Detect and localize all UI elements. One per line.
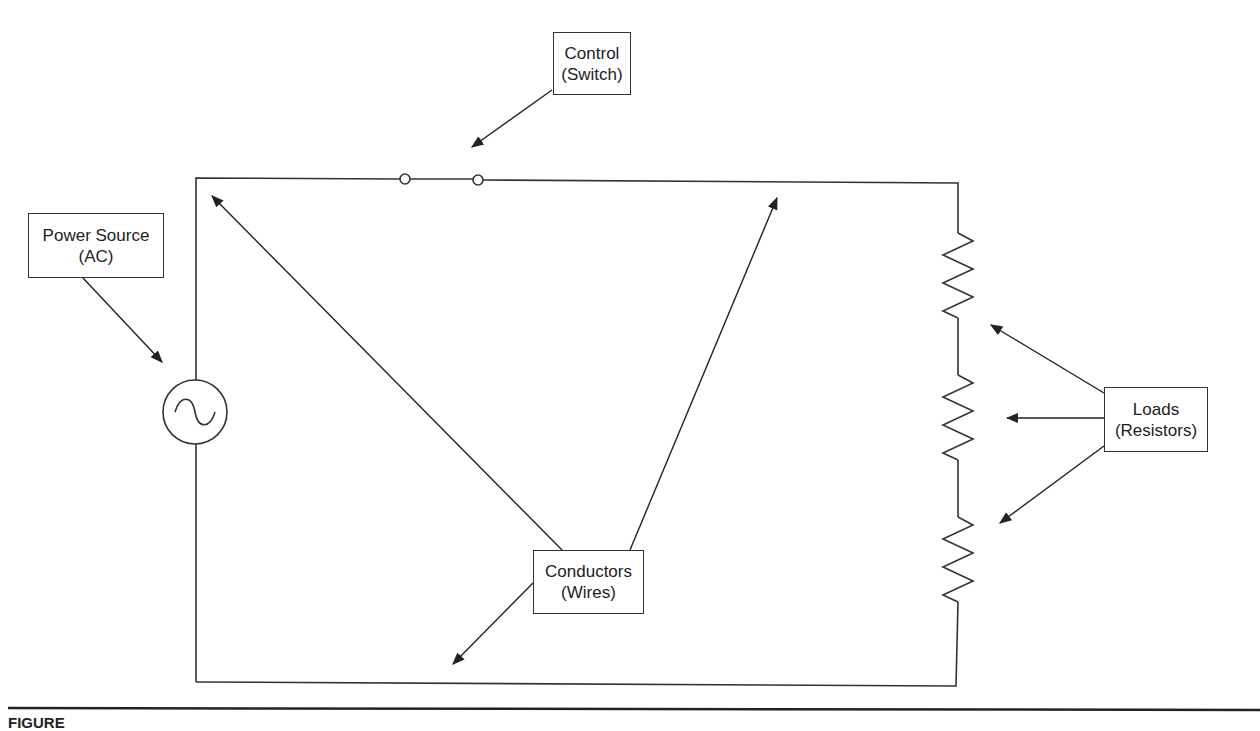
figure-caption: FIGURE: [8, 714, 65, 731]
loads-label-line1: Loads: [1105, 399, 1207, 420]
control-label: Control (Switch): [553, 32, 631, 95]
loads-label-line2: (Resistors): [1105, 420, 1207, 441]
resistor-3: [943, 517, 973, 602]
conductors-arrow-bottom-wire: [453, 583, 533, 664]
control-label-line2: (Switch): [554, 64, 630, 85]
control-arrow: [472, 90, 552, 147]
conductors-label-line2: (Wires): [534, 582, 643, 603]
loads-arrow-1: [991, 325, 1104, 393]
loads-arrow-3: [1000, 446, 1104, 523]
loads-label: Loads (Resistors): [1104, 387, 1208, 452]
conductors-arrow-left-wire: [212, 196, 562, 550]
wire-left-top: [196, 178, 400, 380]
switch-contact-left: [400, 174, 410, 184]
power-source-label-line2: (AC): [29, 246, 163, 267]
wire-top-right: [483, 180, 958, 233]
resistor-2: [943, 375, 973, 460]
power-arrow: [83, 278, 162, 362]
power-source-label: Power Source (AC): [28, 213, 164, 278]
conductors-label-line1: Conductors: [534, 561, 643, 582]
conductors-arrow-top-wire: [630, 198, 777, 550]
conductors-label: Conductors (Wires): [533, 550, 644, 614]
switch-contact-right: [473, 175, 483, 185]
caption-rule: [8, 708, 1260, 710]
wire-bottom: [196, 602, 958, 686]
control-label-line1: Control: [554, 43, 630, 64]
resistor-1: [943, 233, 973, 318]
power-source-label-line1: Power Source: [29, 225, 163, 246]
